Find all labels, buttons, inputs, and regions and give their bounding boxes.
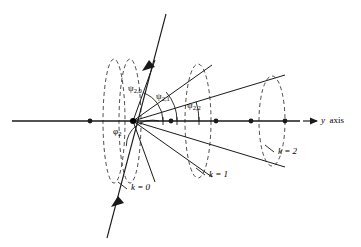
- axis-dot: [249, 119, 254, 124]
- phi-line-arrow-lower-icon: [111, 196, 124, 207]
- cone-label-k0: k = 0: [131, 183, 150, 192]
- leader-k0: [118, 182, 127, 189]
- figure-canvas: ψ2,0 ψ2,1 ψ2,2 φ2 k = 0 k = 1 k = 2 y ax…: [0, 0, 361, 247]
- cone-k2-lower-generator: [133, 121, 285, 167]
- y-axis: [12, 118, 317, 124]
- angle-label-psi-2-1: ψ2,1: [156, 92, 170, 102]
- axis-dot: [283, 119, 288, 124]
- cone-label-k1: k = 1: [209, 170, 228, 179]
- axis-dot: [214, 119, 219, 124]
- axis-dot: [88, 119, 93, 124]
- origin-apex-dot: [130, 118, 136, 124]
- psi-2-2-subscript: 2,2: [193, 104, 201, 111]
- diagram-svg: [0, 0, 361, 247]
- axis-dot: [169, 119, 174, 124]
- cone-label-k2: k = 2: [278, 147, 297, 156]
- angle-label-phi-2: φ2: [113, 127, 121, 137]
- angle-label-psi-2-2: ψ2,2: [187, 101, 201, 111]
- leader-k2: [265, 145, 274, 152]
- phi-2-subscript: 2: [118, 130, 121, 137]
- cone-k1-lower-generator: [133, 121, 212, 177]
- psi-2-0-subscript: 2,0: [134, 87, 142, 94]
- psi-2-1-subscript: 2,1: [162, 95, 170, 102]
- y-axis-label: y axis: [321, 116, 344, 125]
- angle-label-psi-2-0: ψ2,0: [128, 84, 142, 94]
- y-axis-label-text: axis: [330, 115, 345, 125]
